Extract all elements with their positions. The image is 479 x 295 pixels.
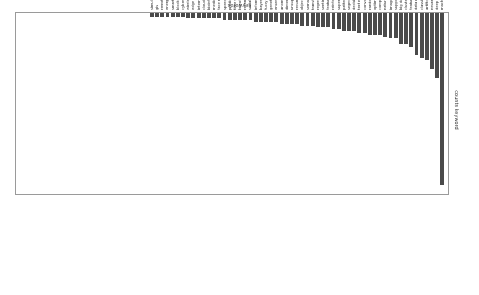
bar-slot — [367, 13, 372, 194]
bar — [228, 13, 232, 20]
bar — [274, 13, 278, 22]
bar — [223, 13, 227, 20]
bar-slot — [253, 13, 258, 194]
bar — [430, 13, 434, 69]
bar-slot — [321, 13, 326, 194]
y-axis-title: counts keyword — [454, 50, 460, 170]
bar — [233, 13, 237, 20]
bar-slot — [383, 13, 388, 194]
bar — [394, 13, 398, 38]
bar — [352, 13, 356, 31]
bar — [264, 13, 268, 22]
bar-slot — [217, 13, 222, 194]
bar-slot — [165, 13, 170, 194]
bar — [383, 13, 387, 37]
plot-area — [15, 12, 449, 195]
bar-slot — [232, 13, 237, 194]
bar — [243, 13, 247, 20]
bar-slot — [295, 13, 300, 194]
bar-slot — [196, 13, 201, 194]
bar — [238, 13, 242, 20]
bar-slot — [346, 13, 351, 194]
bar — [363, 13, 367, 33]
bar-slot — [435, 13, 440, 194]
bar-slot — [393, 13, 398, 194]
bar-slot — [305, 13, 310, 194]
bar — [212, 13, 216, 18]
bar — [181, 13, 185, 17]
bar — [409, 13, 413, 47]
bar — [249, 13, 253, 20]
bar — [337, 13, 341, 29]
bar-slot — [175, 13, 180, 194]
bar — [254, 13, 258, 22]
bar-slot — [243, 13, 248, 194]
bar-slot — [191, 13, 196, 194]
bar — [326, 13, 330, 27]
bar — [311, 13, 315, 26]
bar-slot — [388, 13, 393, 194]
bar — [207, 13, 211, 18]
bar — [435, 13, 439, 78]
bar-slot — [310, 13, 315, 194]
bar-slot — [227, 13, 232, 194]
bar-slot — [424, 13, 429, 194]
bar-slot — [409, 13, 414, 194]
bar-slot — [201, 13, 206, 194]
bar-slot — [414, 13, 419, 194]
bar-slot — [404, 13, 409, 194]
bar-slot — [212, 13, 217, 194]
bar — [389, 13, 393, 38]
bar — [269, 13, 273, 22]
bar-slot — [362, 13, 367, 194]
bar-slot — [258, 13, 263, 194]
x-axis-title: keywords — [0, 3, 479, 9]
bar — [150, 13, 154, 17]
bar-slot — [186, 13, 191, 194]
bar-slot — [336, 13, 341, 194]
bar-slot — [170, 13, 175, 194]
bar-slot — [248, 13, 253, 194]
bar-series — [16, 13, 448, 194]
bar — [415, 13, 419, 55]
bar — [332, 13, 336, 29]
bar — [295, 13, 299, 24]
bar — [285, 13, 289, 24]
bar-slot — [419, 13, 424, 194]
bar-slot — [398, 13, 403, 194]
bar — [347, 13, 351, 31]
bar — [404, 13, 408, 44]
bar-slot — [155, 13, 160, 194]
bar-slot — [284, 13, 289, 194]
bar-slot — [331, 13, 336, 194]
bar-slot — [180, 13, 185, 194]
bar — [425, 13, 429, 60]
bar — [440, 13, 444, 185]
bar — [306, 13, 310, 26]
bar-slot — [160, 13, 165, 194]
bar-slot — [269, 13, 274, 194]
bar-slot — [440, 13, 445, 194]
bar-slot — [326, 13, 331, 194]
bar — [171, 13, 175, 17]
bar — [378, 13, 382, 35]
bar-slot — [149, 13, 154, 194]
bar — [155, 13, 159, 17]
bar — [259, 13, 263, 22]
bar-slot — [222, 13, 227, 194]
bar-slot — [289, 13, 294, 194]
bar — [280, 13, 284, 24]
bar — [191, 13, 195, 18]
bar-slot — [274, 13, 279, 194]
bar — [160, 13, 164, 17]
bar — [399, 13, 403, 44]
bar-slot — [206, 13, 211, 194]
bar-slot — [279, 13, 284, 194]
bar — [166, 13, 170, 17]
bar — [368, 13, 372, 35]
bar — [300, 13, 304, 26]
bar — [217, 13, 221, 18]
bar — [321, 13, 325, 27]
bar-slot — [378, 13, 383, 194]
bar-slot — [341, 13, 346, 194]
